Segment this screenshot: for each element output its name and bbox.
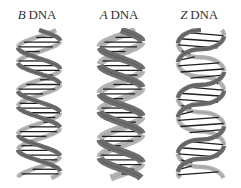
z-dna-helix-graphic — [174, 28, 230, 184]
label-b-dna: B DNA — [18, 7, 56, 23]
a-dna-helix — [96, 28, 148, 184]
label-a-suffix: DNA — [108, 7, 139, 22]
label-z-dna: Z DNA — [180, 7, 218, 23]
label-b-suffix: DNA — [26, 7, 57, 22]
z-dna-helix — [174, 28, 230, 184]
b-dna-helix — [14, 28, 64, 184]
label-a-dna: A DNA — [100, 7, 138, 23]
label-z-suffix: DNA — [187, 7, 218, 22]
label-b-letter: B — [18, 7, 26, 22]
label-a-letter: A — [100, 7, 108, 22]
a-dna-helix-graphic — [96, 28, 148, 184]
label-z-letter: Z — [180, 7, 187, 22]
b-dna-helix-graphic — [14, 28, 64, 184]
